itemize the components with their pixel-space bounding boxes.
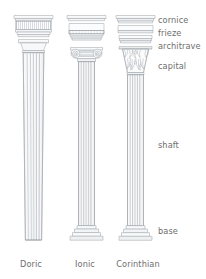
corinthian-shaft bbox=[128, 75, 144, 226]
doric-architrave bbox=[16, 30, 52, 37]
ionic-capital bbox=[71, 48, 103, 62]
ionic-base bbox=[70, 226, 103, 241]
corinthian-base bbox=[119, 226, 152, 241]
doric-frieze bbox=[16, 21, 51, 29]
label-shaft: shaft bbox=[158, 140, 179, 150]
ionic-architrave bbox=[69, 31, 104, 41]
doric-column bbox=[14, 16, 53, 241]
corinthian-architrave bbox=[119, 36, 152, 43]
label-cornice: cornice bbox=[158, 15, 188, 25]
ionic-volute-left bbox=[71, 49, 80, 58]
label-frieze: frieze bbox=[158, 28, 182, 38]
label-order-doric: Doric bbox=[8, 259, 54, 269]
label-order-corinthian: Corinthian bbox=[110, 259, 166, 269]
doric-capital bbox=[19, 40, 49, 53]
ionic-cornice bbox=[67, 16, 106, 21]
corinthian-frieze bbox=[118, 26, 153, 33]
label-capital: capital bbox=[158, 61, 186, 71]
ionic-shaft bbox=[79, 62, 95, 226]
corinthian-capital bbox=[119, 47, 152, 75]
corinthian-column bbox=[116, 16, 155, 241]
doric-shaft bbox=[23, 53, 44, 240]
label-base: base bbox=[158, 226, 178, 236]
label-order-ionic: Ionic bbox=[62, 259, 108, 269]
doric-cornice bbox=[14, 16, 53, 22]
ionic-column bbox=[67, 16, 106, 241]
label-architrave: architrave bbox=[158, 41, 201, 51]
ionic-frieze bbox=[69, 24, 104, 31]
ionic-volute-right bbox=[93, 49, 102, 58]
corinthian-cornice bbox=[116, 16, 155, 23]
